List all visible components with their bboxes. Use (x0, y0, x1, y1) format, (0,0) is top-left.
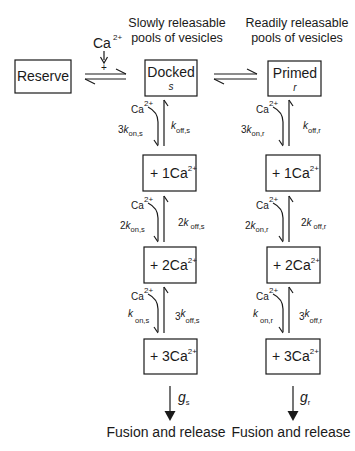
off-rate-label: koff,s (171, 120, 190, 135)
vesicle-pool-diagram: Slowly releasable pools of vesicles Read… (0, 0, 355, 451)
binding-arrow (273, 203, 283, 241)
slow-transition-1: Ca 2+ 2kon,s 2koff,s (120, 195, 205, 242)
off-rate-label: 3koff,s (175, 308, 200, 325)
ready-column: Ca 2+ 3kon,r koff,r + 1Ca2+ Ca 2+ 2kon,r… (231, 99, 350, 440)
primed-label: Primed (273, 65, 317, 81)
on-rate-label: 2kon,r (245, 220, 269, 234)
calcium-charge: 2+ (144, 286, 153, 295)
calcium-label: Ca (131, 291, 144, 302)
ready-transition-0: Ca 2+ 3kon,r koff,r (241, 99, 321, 146)
ready-release-arrowhead-icon (288, 411, 299, 421)
calcium-charge: 2+ (269, 286, 278, 295)
ready-pool-header-line2: pools of vesicles (251, 31, 343, 45)
ready-transition-1: Ca 2+ 2kon,r 2koff,r (245, 195, 327, 242)
reserve-label: Reserve (17, 68, 69, 84)
on-rate-label: 3kon,r (241, 124, 265, 138)
slow-release-arrowhead-icon (165, 411, 176, 421)
on-rate-label: kon,s (128, 308, 149, 325)
off-rate-label: 3koff,r (299, 308, 323, 325)
on-rate-label: 3kon,s (118, 124, 143, 138)
slow-release-rate: gs (178, 389, 190, 407)
slow-outcome-label: Fusion and release (106, 424, 225, 440)
slow-transition-2: Ca 2+ kon,s 3koff,s (128, 286, 200, 333)
docked-symbol: s (169, 81, 174, 92)
ready-release-rate: gr (300, 389, 311, 407)
calcium-charge: 2+ (269, 195, 278, 204)
slow-pool-header-line1: Slowly releasable (128, 16, 225, 30)
binding-arrow (273, 107, 283, 145)
binding-arrow (148, 203, 158, 241)
calcium-charge: 2+ (144, 195, 153, 204)
unbinding-arrowhead-icon (164, 100, 168, 106)
slow-transition-0: Ca 2+ 3kon,s koff,s (118, 99, 190, 146)
calcium-label: Ca (131, 104, 144, 115)
on-rate-label: kon,r (253, 308, 273, 325)
off-rate-label: 2koff,s (178, 217, 205, 231)
calcium-input-charge: 2+ (113, 33, 122, 42)
off-rate-label: koff,r (303, 120, 321, 135)
calcium-charge: 2+ (269, 99, 278, 108)
slow-pool-header-line2: pools of vesicles (131, 31, 223, 45)
unbinding-arrowhead-icon (164, 196, 168, 202)
binding-arrow (148, 294, 158, 332)
on-rate-label: 2kon,s (120, 220, 145, 234)
ready-pool-header-line1: Readily releasable (246, 16, 349, 30)
ready-outcome-label: Fusion and release (231, 424, 350, 440)
calcium-input: Ca 2+ + (93, 33, 122, 73)
off-rate-label: 2koff,r (301, 217, 327, 231)
binding-arrow (273, 294, 283, 332)
ready-transition-2: Ca 2+ kon,r 3koff,r (253, 286, 323, 333)
calcium-charge: 2+ (144, 99, 153, 108)
calcium-label: Ca (256, 200, 269, 211)
slow-column: Ca 2+ 3kon,s koff,s + 1Ca2+ Ca 2+ 2kon,s… (106, 99, 225, 440)
calcium-label: Ca (131, 200, 144, 211)
docked-label: Docked (147, 64, 194, 80)
binding-arrow (148, 107, 158, 145)
unbinding-arrowhead-icon (164, 287, 168, 293)
calcium-input-ion: Ca (93, 35, 111, 51)
calcium-label: Ca (256, 104, 269, 115)
calcium-input-sign: + (101, 62, 107, 73)
docked-primed-equilibrium-arrows (214, 69, 257, 84)
calcium-label: Ca (256, 291, 269, 302)
